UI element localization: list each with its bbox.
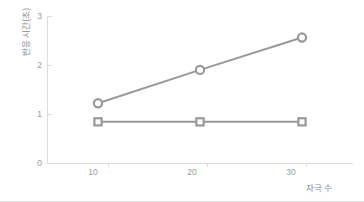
data-point-marker (94, 118, 101, 125)
data-point-marker (196, 66, 204, 74)
chart-figure: 반응 시간(초) 자극 수 3 2 1 0 10 20 30 (0, 0, 364, 202)
data-point-marker (94, 99, 102, 107)
series-increasing-markers (94, 33, 306, 107)
plot-area (0, 0, 364, 202)
data-point-marker (298, 33, 306, 41)
data-point-marker (298, 118, 305, 125)
data-point-marker (196, 118, 203, 125)
